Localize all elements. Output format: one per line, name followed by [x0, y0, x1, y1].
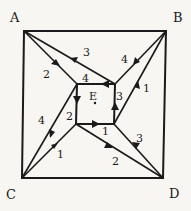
vertex-label-D: D — [169, 186, 179, 201]
edge-label: 3 — [116, 90, 123, 103]
edge-label: 2 — [66, 110, 73, 123]
edge-label: 1 — [57, 148, 64, 161]
arrow-icon — [101, 80, 109, 88]
graph-diagram: A B C D E 3 2 4 4 1 3 2 4 1 3 1 2 — [0, 0, 191, 211]
arrow-icon — [49, 129, 55, 138]
edge-label: 2 — [112, 155, 119, 168]
vertex-label-E: E — [89, 90, 97, 103]
edge-label: 4 — [121, 53, 128, 66]
edge-label: 1 — [143, 82, 150, 95]
arrow-icon — [111, 102, 119, 110]
vertex-label-B: B — [173, 10, 183, 25]
edge-label: 1 — [102, 125, 109, 138]
edge-D-inner-bl — [76, 124, 163, 178]
edge-label: 3 — [136, 132, 143, 145]
vertex-label-A: A — [9, 10, 20, 25]
arrow-icon — [73, 96, 81, 104]
edge-label: 3 — [83, 46, 90, 59]
edge-label: 2 — [43, 68, 50, 81]
edge-label: 4 — [82, 72, 89, 85]
edge-label: 4 — [38, 114, 45, 127]
arrow-icon — [92, 120, 100, 128]
vertex-label-C: C — [6, 187, 16, 202]
